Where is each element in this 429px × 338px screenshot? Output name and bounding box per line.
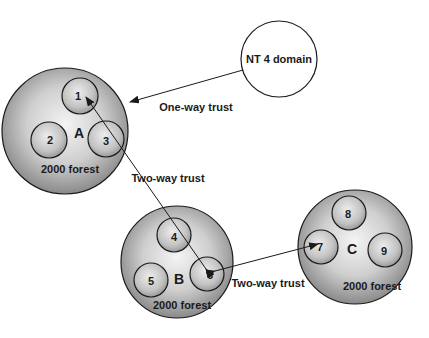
- one-way-trust-label: One-way trust: [159, 101, 233, 113]
- one-way-trust-arrow: [130, 70, 243, 102]
- forest-b-caption: 2000 forest: [153, 299, 211, 311]
- svg-text:6: 6: [207, 269, 213, 281]
- svg-text:9: 9: [381, 245, 387, 257]
- nt4-domain-label: NT 4 domain: [246, 53, 312, 65]
- forest-c-caption: 2000 forest: [343, 280, 401, 292]
- trust-diagram: NT 4 domain 1 2 3 A 2000 forest 4 5 6 B …: [0, 0, 429, 338]
- nt4-domain: NT 4 domain: [241, 21, 317, 97]
- svg-text:1: 1: [75, 90, 81, 102]
- forest-b: 4 5 6 B 2000 forest: [121, 206, 233, 318]
- two-way-trust-label-1: Two-way trust: [131, 172, 204, 184]
- forest-c-label: C: [347, 241, 357, 257]
- forest-b-label: B: [174, 271, 184, 287]
- svg-text:8: 8: [345, 208, 351, 220]
- svg-text:7: 7: [317, 241, 323, 253]
- forest-a-label: A: [74, 125, 84, 141]
- svg-text:2: 2: [47, 134, 53, 146]
- forest-a-caption: 2000 forest: [41, 163, 99, 175]
- forest-c: 8 7 9 C 2000 forest: [298, 190, 412, 304]
- svg-text:5: 5: [148, 275, 154, 287]
- two-way-trust-label-2: Two-way trust: [231, 277, 304, 289]
- svg-text:4: 4: [171, 231, 178, 243]
- svg-text:3: 3: [103, 135, 109, 147]
- forest-a: 1 2 3 A 2000 forest: [2, 68, 128, 194]
